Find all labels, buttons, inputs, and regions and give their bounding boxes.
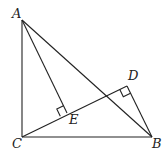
label-A: A — [11, 6, 21, 21]
geometry-diagram: A B C D E — [0, 0, 168, 165]
segment-AE — [22, 20, 67, 113]
label-D: D — [127, 68, 139, 83]
label-B: B — [151, 136, 162, 151]
right-angle-marker-E — [57, 106, 64, 117]
label-E: E — [68, 112, 79, 127]
segment-BD — [127, 86, 152, 137]
label-C: C — [12, 136, 22, 151]
